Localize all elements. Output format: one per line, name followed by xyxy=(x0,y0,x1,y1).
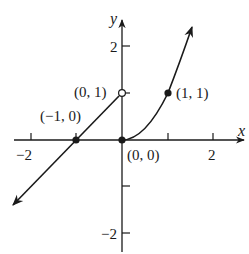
y-tick-label-2: 2 xyxy=(110,39,118,55)
point-neg1-0 xyxy=(72,136,79,143)
label-1-1: (1, 1) xyxy=(176,85,209,102)
x-axis-label: x xyxy=(237,122,245,139)
x-tick-label-2: 2 xyxy=(208,147,216,163)
label-neg1-0: (−1, 0) xyxy=(40,108,81,125)
y-axis-label: y xyxy=(108,10,118,28)
parabola-branch xyxy=(122,27,192,140)
label-0-1: (0, 1) xyxy=(74,84,107,101)
piecewise-graph: x y −2 2 2 −2 (−1, 0) (0, 1) (0, 0) (1, … xyxy=(0,0,249,254)
x-tick-label-neg2: −2 xyxy=(16,147,32,163)
point-0-0 xyxy=(118,136,125,143)
point-0-1-open xyxy=(119,90,126,97)
point-1-1 xyxy=(164,89,171,96)
label-0-0: (0, 0) xyxy=(127,147,160,164)
y-tick-label-neg2: −2 xyxy=(101,226,117,242)
